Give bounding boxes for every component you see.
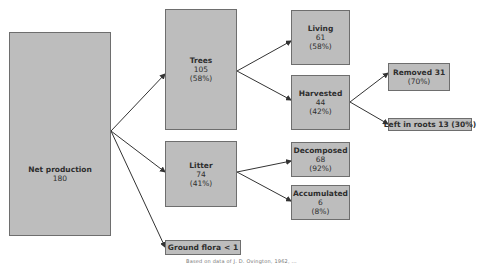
- node-removed-percent: (70%): [408, 77, 431, 86]
- node-harvested: Harvested 44 (42%): [291, 75, 350, 130]
- node-harvested-value: 44: [316, 98, 326, 107]
- node-living-percent: (58%): [309, 42, 332, 51]
- node-trees: Trees 105 (58%): [165, 9, 237, 130]
- node-net-production-title: Net production: [28, 165, 92, 174]
- node-trees-value: 105: [194, 65, 208, 74]
- node-litter: Litter 74 (41%): [165, 141, 237, 207]
- node-ground-flora: Ground flora < 1: [165, 240, 241, 255]
- node-litter-title: Litter: [189, 161, 212, 170]
- node-left-in-roots-title: Left in roots 13 (30%): [384, 120, 476, 129]
- arrow-litter-to-accumulated: [237, 172, 291, 201]
- arrow-litter-to-decomposed: [237, 161, 291, 172]
- arrow-net-to-litter: [111, 131, 165, 172]
- node-decomposed-percent: (92%): [309, 164, 332, 173]
- node-accumulated-title: Accumulated: [293, 189, 348, 198]
- figure-caption: Based on data of J. D. Ovington, 1962, .…: [0, 257, 483, 265]
- node-accumulated-value: 6: [318, 198, 323, 207]
- arrow-trees-to-living: [237, 41, 291, 71]
- node-living-title: Living: [308, 24, 334, 33]
- node-living-value: 61: [316, 33, 326, 42]
- arrow-net-to-trees: [111, 74, 165, 131]
- node-net-production-value: 180: [53, 174, 67, 183]
- node-removed: Removed 31 (70%): [388, 63, 450, 91]
- node-removed-title: Removed 31: [393, 68, 445, 77]
- arrow-net-to-ground-flora: [111, 131, 165, 247]
- node-trees-percent: (58%): [190, 74, 213, 83]
- node-living: Living 61 (58%): [291, 10, 350, 65]
- arrow-trees-to-harvested: [237, 71, 291, 100]
- node-trees-title: Trees: [190, 56, 213, 65]
- arrow-harvested-to-removed: [350, 73, 388, 102]
- node-litter-percent: (41%): [190, 179, 213, 188]
- node-ground-flora-value: < 1: [224, 243, 238, 252]
- arrow-harvested-to-left-in-roots: [350, 102, 388, 124]
- node-accumulated: Accumulated 6 (8%): [291, 185, 350, 220]
- node-decomposed: Decomposed 68 (92%): [291, 142, 350, 177]
- node-decomposed-value: 68: [316, 155, 326, 164]
- node-harvested-percent: (42%): [309, 107, 332, 116]
- node-harvested-title: Harvested: [299, 89, 343, 98]
- node-ground-flora-title: Ground flora: [168, 243, 221, 252]
- diagram-canvas: Net production 180 Trees 105 (58%) Litte…: [0, 0, 483, 265]
- node-litter-value: 74: [196, 170, 206, 179]
- node-accumulated-percent: (8%): [312, 207, 330, 216]
- node-left-in-roots: Left in roots 13 (30%): [388, 118, 472, 131]
- node-decomposed-title: Decomposed: [293, 146, 347, 155]
- node-net-production: Net production 180: [9, 32, 111, 236]
